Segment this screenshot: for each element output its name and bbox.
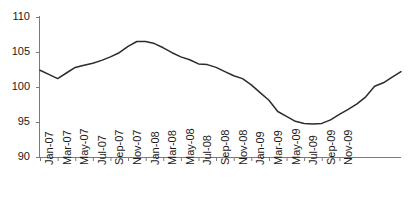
x-axis-tick-label: Jan-07 [44,131,55,165]
y-axis-tick-label: 100 [4,81,30,92]
x-axis-tick-label: Mar-08 [167,130,178,165]
x-axis-tick-label: Sep-07 [114,130,125,165]
x-axis-tick-label: Nov-07 [132,130,143,165]
y-axis [36,16,40,158]
x-axis-tick-label: Jan-09 [255,131,266,165]
x-axis-tick-label: Jul-07 [97,135,108,165]
x-axis-tick-label: Sep-08 [220,130,231,165]
plot-area [0,0,415,216]
line-chart: 9095100105110 Jan-07Mar-07May-07Jul-07Se… [0,0,415,216]
x-axis-tick-label: May-07 [79,128,90,165]
x-axis-tick-label: Jul-09 [308,135,319,165]
y-axis-tick-label: 90 [4,151,30,162]
x-axis-tick-label: May-08 [185,128,196,165]
x-axis-tick-label: May-09 [291,128,302,165]
data-series-line [40,42,401,125]
y-axis-tick-label: 110 [4,11,30,22]
y-axis-tick-label: 95 [4,116,30,127]
x-axis-tick-label: Nov-08 [238,130,249,165]
x-axis-tick-label: Jan-08 [150,131,161,165]
x-axis-tick-label: Mar-09 [273,130,284,165]
x-axis-tick-label: Sep-09 [326,130,337,165]
x-axis-tick-label: Nov-09 [343,130,354,165]
x-axis-tick-label: Mar-07 [62,130,73,165]
x-axis-tick-label: Jul-08 [202,135,213,165]
y-axis-tick-label: 105 [4,46,30,57]
